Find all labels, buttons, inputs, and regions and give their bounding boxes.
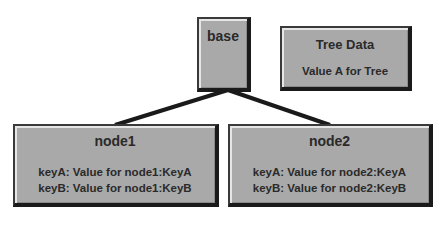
node1-box: node1 keyA: Value for node1:KeyA keyB: V… <box>13 124 219 207</box>
tree-data-box: Tree Data Value A for Tree <box>280 26 412 91</box>
node2-title: node2 <box>230 133 429 149</box>
node1-keyA: keyA: Value for node1:KeyA <box>15 164 215 180</box>
node2-box: node2 keyA: Value for node2:KeyA keyB: V… <box>228 124 433 207</box>
node2-keyB: keyB: Value for node2:KeyB <box>230 180 429 196</box>
node1-keyB: keyB: Value for node1:KeyB <box>15 180 215 196</box>
node1-title: node1 <box>15 133 215 149</box>
base-label: base <box>199 28 247 44</box>
connector-base-node1 <box>115 90 228 125</box>
tree-data-value: Value A for Tree <box>282 63 408 79</box>
base-node: base <box>197 17 251 92</box>
tree-data-title: Tree Data <box>282 37 408 52</box>
connector-base-node2 <box>228 90 330 125</box>
node2-keyA: keyA: Value for node2:KeyA <box>230 164 429 180</box>
